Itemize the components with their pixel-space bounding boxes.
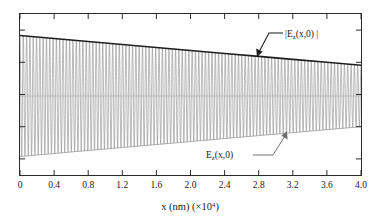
x-tick-label: 2.0 [185, 180, 197, 190]
x-axis-title-mult: ×10 [196, 201, 212, 212]
x-tick-label: 0 [18, 180, 23, 190]
x-tick-label: 2.8 [253, 180, 265, 190]
envelope-label: |Ez(x,0) | [285, 29, 318, 40]
standing-wave-plot: 00.40.81.21.62.02.42.83.23.64.0 |Ez(x,0)… [0, 0, 381, 222]
field-label-suffix: (x,0) [215, 150, 233, 161]
x-tick-label: 1.6 [150, 180, 162, 190]
x-tick-label: 0.8 [82, 180, 94, 190]
x-axis-title: x (nm) (×104) [161, 201, 219, 213]
x-tick-label: 1.2 [116, 180, 128, 190]
figure-container: 00.40.81.21.62.02.42.83.23.64.0 |Ez(x,0)… [0, 0, 381, 222]
field-label: Ez(x,0) [206, 150, 233, 161]
x-tick-label: 3.2 [287, 180, 299, 190]
x-tick-label: 0.4 [48, 180, 60, 190]
x-tick-label: 2.4 [219, 180, 231, 190]
x-tick-label: 3.6 [321, 180, 333, 190]
x-axis-title-main: x (nm) ( [161, 201, 196, 213]
x-tick-label: 4.0 [355, 180, 367, 190]
envelope-label-prefix: |E [285, 29, 293, 39]
envelope-label-suffix: (x,0) | [296, 29, 319, 40]
x-axis-title-close: ) [215, 201, 219, 213]
